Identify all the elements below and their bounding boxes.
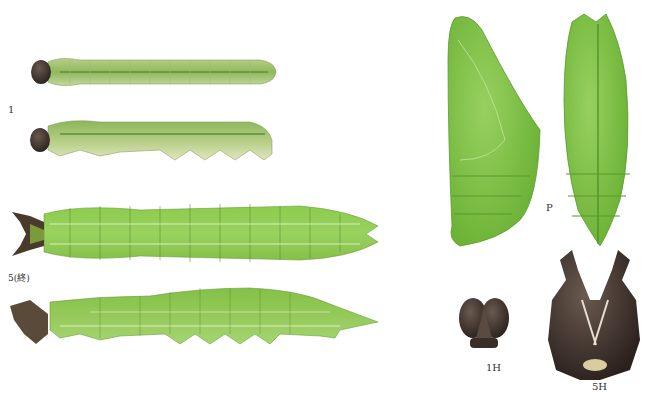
label-first-instar-head: 1H (486, 362, 501, 373)
pupa-dorsal (564, 14, 630, 246)
illustration-plate (0, 0, 661, 399)
final-instar-head (548, 250, 640, 380)
first-instar-lateral-larva (30, 121, 272, 160)
pupa-lateral (448, 17, 540, 247)
label-first-instar: 1 (8, 104, 14, 115)
first-instar-dorsal-larva (31, 58, 276, 85)
final-instar-dorsal-larva (12, 204, 378, 262)
final-instar-lateral-larva (10, 288, 378, 344)
label-final-instar-head: 5H (592, 381, 607, 392)
label-pupa: P (546, 202, 553, 213)
label-final-instar: 5(終) (8, 271, 30, 284)
first-instar-head (459, 298, 509, 348)
